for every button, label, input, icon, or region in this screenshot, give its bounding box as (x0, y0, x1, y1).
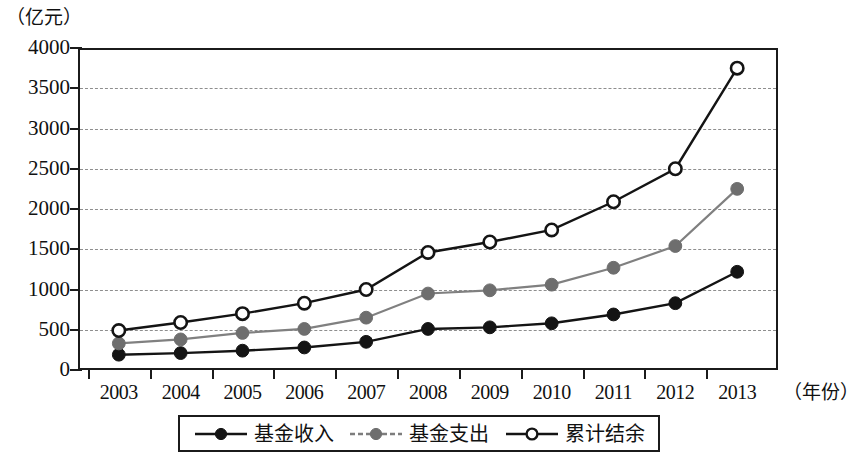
y-axis-tick-label: 3500 (4, 77, 70, 98)
x-axis-tick-mark (521, 370, 523, 379)
x-axis-tick-mark (459, 370, 461, 379)
x-axis-title: （年份） (783, 381, 852, 403)
legend-marker-icon (348, 426, 404, 442)
gridline (80, 88, 776, 89)
x-axis-tick-mark (88, 370, 90, 379)
x-axis-tick-label: 2004 (146, 381, 216, 403)
gridline (80, 129, 776, 130)
x-axis-tick-label: 2006 (269, 381, 339, 403)
legend-label: 基金支出 (409, 424, 489, 444)
y-axis-tick-label: 500 (4, 319, 70, 340)
x-axis-tick-label: 2009 (455, 381, 525, 403)
x-axis-tick-label: 2013 (702, 381, 772, 403)
y-axis-tick-label: 2500 (4, 158, 70, 179)
y-axis-tick-label: 1000 (4, 279, 70, 300)
gridline (80, 249, 776, 250)
x-axis-tick-label: 2003 (84, 381, 154, 403)
y-axis-tick-label: 0 (4, 359, 70, 380)
x-axis-tick-mark (583, 370, 585, 379)
plot-area (78, 48, 778, 370)
gridline (80, 169, 776, 170)
legend-label: 累计结余 (565, 424, 645, 444)
x-axis-tick-mark (273, 370, 275, 379)
legend-marker-icon (193, 426, 249, 442)
legend-item-1: 基金收入 (193, 424, 334, 444)
legend-label: 基金收入 (254, 424, 334, 444)
x-axis-tick-mark (150, 370, 152, 379)
y-axis-tick-label: 3000 (4, 118, 70, 139)
legend-item-2: 基金支出 (348, 424, 489, 444)
chart-legend: 基金收入基金支出累计结余 (178, 415, 660, 452)
legend-marker-icon (504, 426, 560, 442)
legend-item-3: 累计结余 (504, 424, 645, 444)
x-axis-tick-label: 2012 (640, 381, 710, 403)
x-axis-tick-label: 2008 (393, 381, 463, 403)
line-chart: （亿元） 05001000150020002500300035004000 20… (0, 0, 852, 452)
y-axis-tick-label: 4000 (4, 37, 70, 58)
y-axis-tick-label: 1500 (4, 238, 70, 259)
gridline (80, 290, 776, 291)
x-axis-tick-label: 2005 (207, 381, 277, 403)
y-axis-unit-label: （亿元） (6, 2, 82, 29)
gridline (80, 330, 776, 331)
x-axis-tick-label: 2010 (517, 381, 587, 403)
x-axis-tick-mark (644, 370, 646, 379)
x-axis-tick-label: 2007 (331, 381, 401, 403)
x-axis-tick-mark (397, 370, 399, 379)
x-axis-tick-mark (706, 370, 708, 379)
x-axis-tick-mark (335, 370, 337, 379)
y-axis-tick-label: 2000 (4, 198, 70, 219)
gridline (80, 209, 776, 210)
x-axis-tick-mark (212, 370, 214, 379)
x-axis-tick-label: 2011 (579, 381, 649, 403)
